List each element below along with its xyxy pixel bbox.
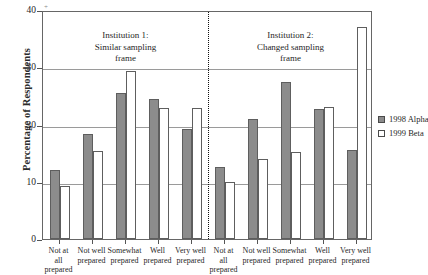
y-axis-title: Percentage of Respondents — [21, 20, 32, 200]
panel-caption-line: frame — [211, 53, 371, 65]
legend-item: 1999 Beta — [378, 126, 428, 140]
panel-caption-line: Institution 1: — [46, 30, 206, 42]
x-tick — [125, 240, 126, 244]
y-tick — [37, 11, 42, 12]
legend-swatch-beta — [378, 130, 385, 137]
bar — [324, 107, 334, 239]
legend-label: 1998 Alpha — [389, 112, 428, 126]
panel-caption-line: Institution 2: — [211, 30, 371, 42]
x-tick — [257, 240, 258, 244]
x-tick-label-line: prepared — [201, 265, 247, 275]
y-tick — [37, 183, 42, 184]
bar — [126, 71, 136, 239]
x-tick-label-line: Very well — [333, 246, 379, 256]
bar — [258, 159, 268, 239]
bar — [149, 99, 159, 239]
x-tick — [158, 240, 159, 244]
bar — [291, 152, 301, 239]
panel-caption: Institution 1:Similar samplingframe — [46, 30, 206, 65]
panel-caption: Institution 2:Changed samplingframe — [211, 30, 371, 65]
y-tick-label: 20 — [10, 120, 36, 130]
y-tick — [37, 240, 42, 241]
x-tick — [191, 240, 192, 244]
panel-caption-line: frame — [46, 53, 206, 65]
y-tick-label: 10 — [10, 177, 36, 187]
gridline — [43, 69, 371, 70]
bar — [225, 182, 235, 239]
bar — [116, 93, 126, 239]
bar — [93, 151, 103, 239]
bar — [50, 170, 60, 239]
y-tick-label: 30 — [10, 62, 36, 72]
x-tick — [323, 240, 324, 244]
legend-swatch-alpha — [378, 116, 385, 123]
chart-legend: 1998 Alpha1999 Beta — [378, 112, 428, 140]
bar — [182, 129, 192, 239]
bar — [357, 27, 367, 239]
x-tick — [224, 240, 225, 244]
y-tick-label: 40 — [10, 5, 36, 15]
panel-caption-line: Changed sampling — [211, 42, 371, 54]
bar — [314, 109, 324, 239]
y-tick — [37, 126, 42, 127]
x-tick — [356, 240, 357, 244]
bar — [248, 119, 258, 239]
x-tick — [59, 240, 60, 244]
bar — [83, 134, 93, 239]
x-tick-label-line: prepared — [36, 265, 82, 275]
plot-area: Institution 1:Similar samplingframeInsti… — [42, 11, 372, 240]
x-tick-label-line: prepared — [333, 256, 379, 266]
legend-label: 1999 Beta — [389, 126, 424, 140]
legend-item: 1998 Alpha — [378, 112, 428, 126]
x-tick — [290, 240, 291, 244]
bar — [159, 108, 169, 239]
bar — [347, 150, 357, 239]
y-tick — [37, 68, 42, 69]
panel-caption-line: Similar sampling — [46, 42, 206, 54]
bar — [215, 167, 225, 239]
bar — [192, 108, 202, 239]
bar — [60, 186, 70, 239]
y-tick-label: 0 — [10, 234, 36, 244]
bar — [281, 82, 291, 239]
stray-artifact-mark: + — [44, 3, 48, 11]
x-tick — [92, 240, 93, 244]
panel-divider — [208, 12, 209, 239]
x-tick-label: Very wellprepared — [333, 246, 379, 265]
